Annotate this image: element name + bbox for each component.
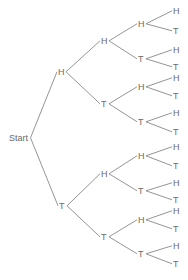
tree-branch [109, 104, 137, 122]
tree-branch [146, 211, 172, 220]
tree-branch [109, 24, 137, 41]
node-level3-h: H [138, 151, 145, 161]
tree-branch [109, 174, 137, 191]
node-level2-h: H [101, 169, 108, 179]
leaf-node-h: H [173, 6, 180, 16]
tree-branch [109, 87, 137, 104]
tree-branch [31, 138, 59, 206]
tree-branch [109, 41, 137, 59]
tree-branch [146, 147, 172, 156]
node-level3-h: H [138, 19, 145, 29]
leaf-node-t: T [173, 91, 179, 101]
tree-branch [31, 72, 58, 138]
leaf-node-t: T [173, 195, 179, 205]
tree-branch [146, 183, 172, 191]
root-node-start: Start [9, 133, 29, 143]
tree-edges [31, 11, 173, 264]
tree-branch [146, 191, 172, 200]
node-level1-t: T [59, 201, 65, 211]
leaf-node-h: H [173, 206, 180, 216]
node-level3-t: T [138, 249, 144, 259]
leaf-node-h: H [173, 241, 180, 251]
tree-branch [146, 78, 172, 87]
tree-branch [66, 41, 100, 72]
tree-branch [146, 59, 172, 67]
probability-tree: StartHTHTHTHTHTHTHTHTHTHTHTHTHTHTHT [0, 0, 188, 280]
leaf-node-t: T [173, 127, 179, 137]
leaf-node-t: T [173, 161, 179, 171]
leaf-node-h: H [173, 108, 180, 118]
tree-branch [146, 87, 172, 96]
tree-branch [146, 122, 172, 132]
tree-branch [146, 11, 172, 24]
tree-branch [146, 50, 172, 59]
tree-labels: StartHTHTHTHTHTHTHTHTHTHTHTHTHTHTHT [9, 6, 180, 269]
tree-branch [109, 220, 137, 237]
node-level2-h: H [101, 36, 108, 46]
tree-branch [66, 72, 100, 104]
tree-branch [146, 220, 172, 229]
leaf-node-t: T [173, 62, 179, 72]
tree-branch [146, 113, 172, 122]
leaf-node-t: T [173, 224, 179, 234]
tree-branch [67, 174, 100, 206]
tree-branch [146, 254, 172, 264]
node-level3-h: H [138, 82, 145, 92]
node-level3-t: T [138, 117, 144, 127]
tree-branch [146, 156, 172, 166]
node-level1-h: H [58, 67, 65, 77]
leaf-node-h: H [173, 142, 180, 152]
tree-branch [109, 156, 137, 174]
node-level3-t: T [138, 186, 144, 196]
node-level3-h: H [138, 215, 145, 225]
node-level2-t: T [101, 99, 107, 109]
leaf-node-h: H [173, 45, 180, 55]
leaf-node-t: T [173, 259, 179, 269]
leaf-node-h: H [173, 178, 180, 188]
leaf-node-t: T [173, 26, 179, 36]
tree-branch [67, 206, 100, 237]
tree-branch [109, 237, 137, 254]
node-level2-t: T [101, 232, 107, 242]
node-level3-t: T [138, 54, 144, 64]
tree-branch [146, 24, 172, 31]
tree-branch [146, 246, 172, 254]
leaf-node-h: H [173, 73, 180, 83]
